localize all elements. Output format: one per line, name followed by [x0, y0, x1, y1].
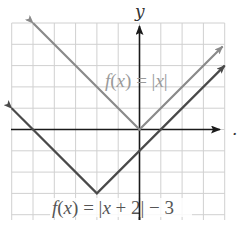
function-graph: y . f(x) = |x| f(x) = |x + 2| − 3 [0, 0, 238, 227]
shifted-abs-label: f(x) = |x + 2| − 3 [52, 197, 174, 219]
abs-x-label: f(x) = |x| [105, 70, 168, 92]
y-axis-label: y [134, 1, 145, 21]
trailing-period: . [232, 119, 237, 139]
grid-lines [12, 23, 225, 220]
